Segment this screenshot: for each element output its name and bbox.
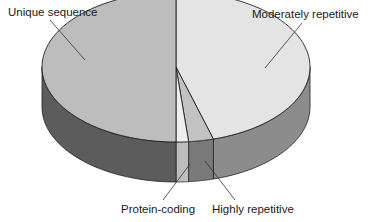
side-protein-coding xyxy=(176,142,189,182)
pie-chart xyxy=(0,0,377,222)
pie-top-faces xyxy=(42,0,310,142)
label-highly-repetitive: Highly repetitive xyxy=(212,203,294,215)
label-unique-sequence: Unique sequence xyxy=(8,6,98,18)
label-moderately-repetitive: Moderately repetitive xyxy=(252,8,359,20)
side-highly-repetitive xyxy=(189,139,214,182)
label-protein-coding: Protein-coding xyxy=(121,203,195,215)
